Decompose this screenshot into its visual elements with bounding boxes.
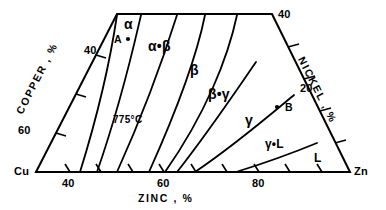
region-label-gamma-liquid: γ•L	[265, 138, 284, 150]
right-tick-label-40: 40	[278, 9, 291, 20]
bottom-tick	[191, 164, 196, 172]
bottom-axis-ticks	[65, 164, 322, 172]
left-tick-label-40: 40	[84, 45, 97, 56]
point-b-label: B	[285, 102, 293, 113]
bottom-tick-label-40: 40	[62, 178, 75, 189]
bottom-tick	[65, 164, 70, 172]
corner-label-cu: Cu	[14, 166, 29, 177]
bottom-tick	[222, 164, 227, 172]
right-tick	[335, 140, 346, 143]
region-label-beta-gamma: β•γ	[208, 87, 230, 101]
isotherm-label: 775°C	[113, 115, 142, 125]
left-tick	[96, 55, 106, 58]
left-tick	[76, 94, 86, 97]
point-a-marker	[126, 37, 130, 41]
point-b-marker	[275, 105, 279, 109]
region-label-gamma: γ	[245, 113, 253, 127]
bottom-tick	[317, 164, 322, 172]
bottom-tick	[128, 164, 133, 172]
boundary-alpha-left	[80, 15, 117, 172]
bottom-tick	[159, 164, 164, 172]
left-axis-ticks	[56, 55, 106, 136]
bottom-tick-label-60: 60	[157, 178, 170, 189]
left-tick	[56, 133, 66, 136]
boundary-gamma-lower	[195, 95, 294, 172]
point-a-label: A	[114, 34, 122, 45]
region-label-alpha: α	[124, 17, 133, 31]
region-label-liquid: L	[314, 152, 322, 164]
bottom-axis-title: ZINC , %	[138, 193, 193, 204]
region-label-alpha-beta: α•β	[148, 39, 171, 53]
corner-label-zn: Zn	[354, 166, 368, 177]
region-label-beta: β	[190, 63, 199, 77]
left-tick-label-60: 60	[18, 125, 31, 136]
right-tick	[288, 44, 299, 47]
bottom-tick-label-80: 80	[252, 178, 265, 189]
ternary-phase-diagram-figure: Cu Zn 40 60 80 ZINC , % 40 60 COPPER , %…	[0, 0, 386, 210]
bottom-tick	[285, 164, 290, 172]
